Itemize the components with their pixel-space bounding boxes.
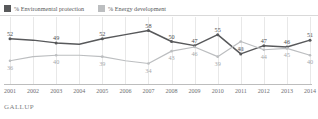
x-tick-2006: 2006: [119, 87, 131, 96]
series-lines: [0, 17, 318, 85]
data-point-marker: [147, 29, 150, 32]
data-label: 51: [307, 31, 313, 38]
data-point-marker: [263, 48, 266, 51]
legend-label-environmental-protection: % Environmental protection: [14, 5, 84, 12]
data-label: 36: [7, 64, 13, 71]
legend-label-energy-development: % Energy development: [108, 5, 166, 12]
x-tick-2005: 2005: [96, 87, 108, 96]
x-tick-2014: 2014: [304, 87, 316, 96]
x-tick-2012: 2012: [258, 87, 270, 96]
data-point-marker: [216, 55, 219, 58]
x-tick-2010: 2010: [212, 87, 224, 96]
data-point-marker: [170, 40, 173, 43]
data-label: 49: [53, 34, 59, 41]
data-label: 34: [145, 67, 151, 74]
data-point-marker: [147, 62, 150, 65]
data-point-marker: [193, 46, 196, 49]
x-tick-2008: 2008: [166, 87, 178, 96]
data-label: 46: [192, 50, 198, 57]
data-label: 44: [261, 53, 267, 60]
data-label: 47: [261, 37, 267, 44]
x-tick-2013: 2013: [281, 87, 293, 96]
data-label: 52: [7, 30, 13, 37]
data-label: 39: [99, 60, 105, 67]
data-point-marker: [55, 54, 58, 57]
data-label: 52: [99, 30, 105, 37]
legend-item-energy-development: % Energy development: [98, 5, 166, 12]
chart-legend: % Environmental protection % Energy deve…: [4, 2, 180, 14]
data-point-marker: [239, 52, 242, 55]
data-point-marker: [262, 44, 265, 47]
data-point-marker: [101, 55, 104, 58]
legend-item-environmental-protection: % Environmental protection: [4, 5, 84, 12]
legend-swatch-environmental-protection: [4, 5, 11, 12]
x-axis-labels: 2001200220032004200520062007200820092010…: [0, 87, 318, 99]
data-point-marker: [9, 37, 12, 40]
legend-divider: [0, 15, 318, 16]
data-label: 40: [53, 58, 59, 65]
data-point-marker: [309, 54, 312, 57]
data-label: 58: [145, 22, 151, 29]
data-point-marker: [286, 47, 289, 50]
x-tick-2001: 2001: [4, 87, 16, 96]
data-point-marker: [55, 41, 58, 44]
x-tick-2002: 2002: [27, 87, 39, 96]
x-tick-2009: 2009: [189, 87, 201, 96]
x-tick-2003: 2003: [50, 87, 62, 96]
data-point-marker: [9, 59, 12, 62]
data-label: 43: [168, 54, 174, 61]
data-point-marker: [216, 33, 219, 36]
data-label: 45: [284, 51, 290, 58]
x-axis-line: [4, 84, 312, 85]
legend-swatch-energy-development: [98, 5, 105, 12]
data-label: 50: [168, 33, 174, 40]
data-label: 46: [284, 38, 290, 45]
x-tick-2011: 2011: [235, 87, 247, 96]
data-label: 50: [238, 45, 244, 52]
data-label: 47: [192, 37, 198, 44]
x-tick-2004: 2004: [73, 87, 85, 96]
data-label: 40: [307, 58, 313, 65]
x-tick-2007: 2007: [142, 87, 154, 96]
data-point-marker: [239, 40, 242, 43]
plot-area: 5249525850475541474651364039344346395044…: [0, 17, 318, 85]
data-point-marker: [309, 39, 312, 42]
data-point-marker: [170, 50, 173, 53]
data-point-marker: [101, 37, 104, 40]
data-label: 55: [215, 26, 221, 33]
chart-figure: % Environmental protection % Energy deve…: [0, 0, 318, 119]
data-label: 39: [215, 60, 221, 67]
gallup-brand: GALLUP: [4, 103, 34, 111]
